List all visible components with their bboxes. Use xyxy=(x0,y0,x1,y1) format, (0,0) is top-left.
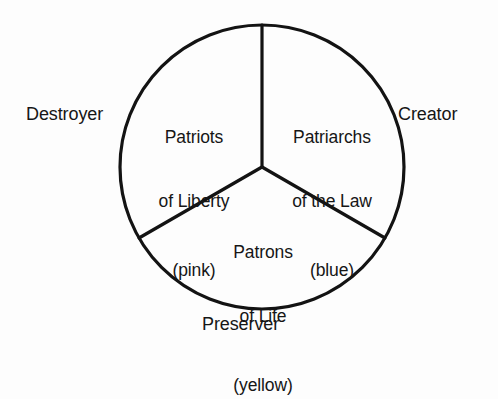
outer-label-destroyer: Destroyer xyxy=(26,104,103,126)
segment-pink-title-line-1: Patriots xyxy=(131,127,257,148)
segment-blue-title-line-1: Patriarchs xyxy=(269,127,395,148)
segment-label-yellow: Patrons of Life (yellow) xyxy=(199,199,327,399)
outer-label-creator: Creator xyxy=(398,104,457,126)
segment-yellow-title-line-1: Patrons xyxy=(199,242,327,263)
outer-label-preserver: Preserver xyxy=(202,314,279,336)
segment-yellow-color-note: (yellow) xyxy=(199,375,327,396)
